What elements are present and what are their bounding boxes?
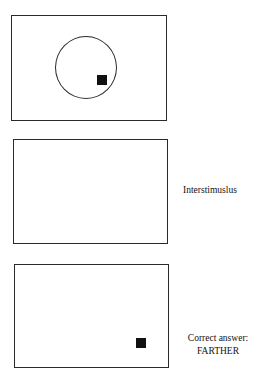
target-square-probe [136, 338, 146, 348]
interstimulus-label: Interstimuslus [183, 184, 237, 196]
interstimulus-frame [13, 139, 168, 244]
correct-answer-label: Correct answer: [183, 332, 253, 344]
target-square-stimulus [97, 75, 107, 85]
reference-circle [55, 36, 117, 99]
probe-frame [14, 264, 169, 368]
correct-answer-value: FARTHER [183, 345, 253, 357]
